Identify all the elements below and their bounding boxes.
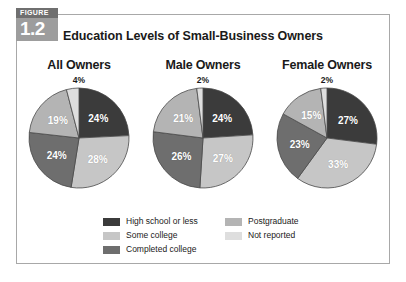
pie-graphic: 24%28%24%19% (27, 86, 131, 190)
legend-label: Completed college (126, 245, 196, 254)
pie-slice-label: 15% (301, 109, 321, 120)
legend-swatch-some-college (103, 232, 120, 240)
legend-label: Some college (126, 231, 178, 240)
pie-slice-label: 21% (173, 113, 193, 124)
pie-chart-title: Female Owners (265, 58, 389, 72)
pie-slice-label: 27% (338, 114, 358, 125)
legend-swatch-not-reported (225, 232, 242, 240)
pie-slice-outside-label: 2% (265, 75, 389, 86)
pie-slice-label: 27% (213, 152, 233, 163)
pie-chart-title: All Owners (17, 58, 141, 72)
legend-column-2: PostgraduateNot reported (225, 216, 299, 255)
legend-label: High school or less (126, 217, 198, 226)
pie-slice-label: 19% (48, 114, 68, 125)
legend-column-1: High school or lessSome collegeCompleted… (103, 216, 225, 255)
figure-badge-kicker: FIGURE (16, 8, 58, 18)
pie-chart-row: All Owners4%24%28%24%19%Male Owners2%24%… (17, 58, 389, 190)
pie-slice-label: 24% (47, 150, 67, 161)
legend-item: Completed college (103, 244, 225, 255)
pie-graphic: 27%33%23%15% (275, 86, 379, 190)
pie-slice-label: 33% (328, 158, 348, 169)
legend-swatch-postgraduate (225, 218, 242, 226)
pie-chart-male-owners: Male Owners2%24%27%26%21% (141, 58, 265, 190)
legend-item: Some college (103, 230, 225, 241)
pie-graphic: 24%27%26%21% (151, 86, 255, 190)
pie-slice-label: 24% (88, 112, 108, 123)
figure-badge: FIGURE 1.2 (16, 8, 58, 41)
pie-chart-title: Male Owners (141, 58, 265, 72)
pie-slice-label: 26% (171, 150, 191, 161)
figure-title: Education Levels of Small-Business Owner… (63, 29, 323, 43)
figure-container: FIGURE 1.2 Education Levels of Small-Bus… (0, 0, 406, 282)
legend-label: Not reported (248, 231, 295, 240)
legend-item: High school or less (103, 216, 225, 227)
pie-slice-outside-label: 2% (141, 75, 265, 86)
pie-slice-outside-label: 4% (17, 75, 141, 86)
pie-chart-female-owners: Female Owners2%27%33%23%15% (265, 58, 389, 190)
legend-item: Postgraduate (225, 216, 299, 227)
pie-slice-label: 23% (290, 139, 310, 150)
pie-slice-label: 28% (88, 153, 108, 164)
pie-chart-all-owners: All Owners4%24%28%24%19% (17, 58, 141, 190)
legend-item: Not reported (225, 230, 299, 241)
legend-swatch-high-school-or-less (103, 218, 120, 226)
figure-badge-number: 1.2 (16, 18, 58, 41)
legend-swatch-completed-college (103, 246, 120, 254)
legend-label: Postgraduate (248, 217, 299, 226)
chart-legend: High school or lessSome collegeCompleted… (103, 216, 348, 255)
pie-slice-label: 24% (212, 112, 232, 123)
